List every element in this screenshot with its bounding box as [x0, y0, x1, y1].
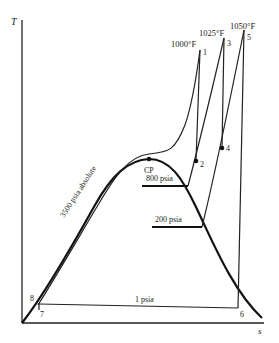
temp-label-1025: 1025°F — [199, 28, 224, 38]
isobar-800-label: 800 psia — [146, 174, 173, 183]
s-axis-label: s — [258, 326, 262, 336]
t-axis-label: T — [11, 16, 18, 27]
critical-point-marker — [147, 157, 152, 162]
state-label-7: 7 — [40, 310, 44, 319]
isobar-200-superheat — [202, 30, 244, 227]
isobar-200-label: 200 psia — [155, 215, 182, 224]
isobar-3500 — [38, 50, 200, 305]
isobar-1-line — [39, 304, 238, 308]
state-label-2: 2 — [200, 160, 204, 169]
state-label-5: 5 — [247, 33, 251, 42]
ts-diagram: T s CP 3500 psia absolute 800 psia 200 p… — [0, 0, 279, 343]
state-point-2-marker — [194, 159, 199, 164]
state-label-3: 3 — [227, 39, 231, 48]
isobar-1-label: 1 psia — [135, 295, 154, 304]
process-5-6 — [238, 30, 244, 308]
temp-label-1050: 1050°F — [230, 21, 255, 31]
state-label-8: 8 — [30, 294, 34, 303]
temp-label-1000: 1000°F — [171, 39, 196, 49]
state-label-1: 1 — [203, 48, 207, 57]
state-label-4: 4 — [226, 144, 230, 153]
state-label-6: 6 — [240, 310, 244, 319]
isobar-800-superheat — [188, 38, 224, 186]
state-point-4-marker — [220, 146, 225, 151]
